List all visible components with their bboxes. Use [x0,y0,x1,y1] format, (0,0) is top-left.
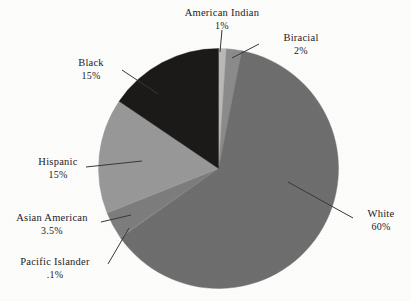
slice-label-white-name: White [368,208,395,219]
slice-label-biracial-pct: 2% [262,45,340,58]
slice-label-black: Black 15% [62,57,120,82]
slice-label-white-pct: 60% [357,221,405,234]
slice-label-black-name: Black [78,57,104,68]
pie-slice-group [98,48,338,288]
slice-label-pacific-islander-pct: .1% [4,269,106,282]
slice-label-hispanic: Hispanic 15% [24,156,92,181]
slice-label-white: White 60% [357,208,405,233]
slice-label-black-pct: 15% [62,70,120,83]
slice-label-american-indian-pct: 1% [166,20,278,33]
slice-label-asian-american-pct: 3.5% [4,225,100,238]
slice-label-biracial-name: Biracial [283,32,318,43]
slice-label-american-indian: American Indian 1% [166,7,278,32]
slice-label-biracial: Biracial 2% [262,32,340,57]
slice-label-american-indian-name: American Indian [185,7,260,18]
slice-label-asian-american-name: Asian American [16,212,87,223]
slice-label-hispanic-name: Hispanic [38,156,77,167]
slice-label-hispanic-pct: 15% [24,169,92,182]
slice-label-asian-american: Asian American 3.5% [4,212,100,237]
slice-label-pacific-islander: Pacific Islander .1% [4,256,106,281]
pie-chart-figure: American Indian 1% Biracial 2% Black 15%… [0,0,410,301]
slice-label-pacific-islander-name: Pacific Islander [20,256,90,267]
